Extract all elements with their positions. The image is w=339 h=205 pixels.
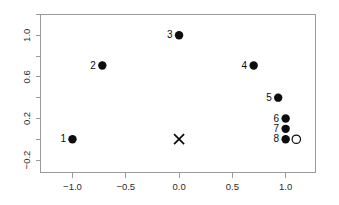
point-label-7: 7 bbox=[274, 123, 280, 134]
y-tick-label: −0.2 bbox=[21, 151, 32, 170]
scatter-plot-figure: −1.0−0.50.00.51.0 −0.20.20.61.0 12345678 bbox=[0, 0, 339, 205]
y-tick-label: 0.2 bbox=[21, 112, 32, 125]
x-tick-label: 1.0 bbox=[279, 181, 292, 192]
point-label-8: 8 bbox=[274, 133, 280, 144]
point-label-2: 2 bbox=[90, 60, 96, 71]
x-tick-label: 0.5 bbox=[226, 181, 239, 192]
data-point-6 bbox=[281, 114, 289, 122]
data-markers: 12345678 bbox=[60, 29, 300, 144]
data-point-8 bbox=[281, 135, 289, 143]
y-tick-label: 1.0 bbox=[21, 29, 32, 42]
x-axis-ticks: −1.0−0.50.00.51.0 bbox=[63, 173, 292, 192]
data-point-4 bbox=[249, 61, 257, 69]
point-label-6: 6 bbox=[274, 113, 280, 124]
y-axis-ticks: −0.20.20.61.0 bbox=[21, 15, 41, 170]
data-point-5 bbox=[274, 93, 282, 101]
data-point-2 bbox=[98, 61, 106, 69]
x-tick-label: −1.0 bbox=[63, 181, 82, 192]
y-tick-label: 0.6 bbox=[21, 70, 32, 83]
data-point-7 bbox=[281, 125, 289, 133]
plot-canvas: −1.0−0.50.00.51.0 −0.20.20.61.0 12345678 bbox=[0, 0, 339, 205]
data-point-1 bbox=[68, 135, 76, 143]
point-label-5: 5 bbox=[266, 92, 272, 103]
data-point-3 bbox=[175, 31, 183, 39]
x-tick-label: 0.0 bbox=[172, 181, 185, 192]
x-tick-label: −0.5 bbox=[116, 181, 135, 192]
open-circle-point bbox=[292, 135, 300, 143]
point-label-1: 1 bbox=[60, 133, 66, 144]
point-label-3: 3 bbox=[167, 29, 173, 40]
point-label-4: 4 bbox=[242, 60, 248, 71]
